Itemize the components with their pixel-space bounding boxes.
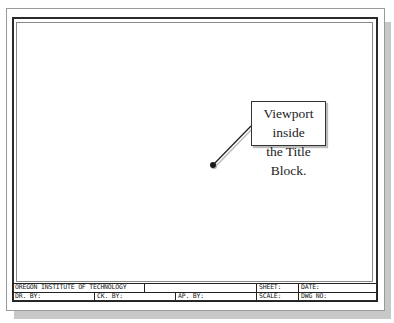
callout-line-1: Viewport inside <box>252 104 325 142</box>
leader-dot-icon <box>210 162 216 168</box>
title-approved-by: AP. BY: <box>175 292 257 302</box>
title-drawn-by: DR. BY: <box>12 292 95 302</box>
title-checked-by: CK. BY: <box>94 292 176 302</box>
callout-note: Viewport inside the Title Block. <box>251 101 326 146</box>
callout-line-2: the Title Block. <box>252 142 325 180</box>
title-dwg-no: DWG NO: <box>298 292 378 302</box>
leader-line <box>0 0 394 323</box>
title-scale: SCALE: <box>256 292 299 302</box>
